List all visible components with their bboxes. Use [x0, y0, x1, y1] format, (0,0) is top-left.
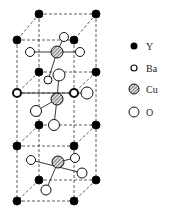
- o-atom: [76, 48, 85, 57]
- o-atom: [41, 185, 51, 195]
- y-atom: [70, 36, 78, 44]
- o-atom: [71, 154, 80, 163]
- legend-y-label: Y: [146, 41, 153, 52]
- y-atom: [92, 176, 100, 184]
- legend-ba-label: Ba: [146, 63, 158, 74]
- o-atom: [60, 33, 69, 42]
- y-atom: [70, 142, 78, 150]
- ba-atom: [13, 89, 21, 97]
- legend-cu-symbol: [129, 84, 139, 94]
- o-atom: [44, 76, 52, 84]
- y-atom: [92, 68, 100, 76]
- o-atom: [27, 156, 36, 165]
- y-atom: [13, 36, 21, 44]
- legend: Y Ba Cu O: [129, 41, 158, 118]
- y-atom: [70, 197, 78, 205]
- cu-atom: [52, 156, 64, 168]
- o-atom: [77, 168, 87, 178]
- o-atom: [49, 120, 60, 131]
- o-atom: [26, 48, 35, 57]
- y-atom: [35, 121, 43, 129]
- y-atom: [35, 10, 43, 18]
- o-atom: [53, 69, 65, 81]
- legend-o-label: O: [146, 107, 153, 118]
- cu-atom: [51, 46, 63, 58]
- cu-atom: [51, 93, 63, 105]
- y-atom: [35, 176, 43, 184]
- y-atom: [92, 121, 100, 129]
- y-atom: [92, 10, 100, 18]
- atoms: [13, 10, 100, 205]
- crystal-structure-diagram: Y Ba Cu O: [0, 0, 172, 219]
- y-atom: [13, 142, 21, 150]
- ba-atom: [70, 89, 78, 97]
- legend-o-symbol: [129, 107, 139, 117]
- o-atom: [31, 106, 42, 117]
- bonds: [17, 37, 87, 190]
- legend-cu-label: Cu: [146, 84, 158, 95]
- y-atom: [35, 68, 43, 76]
- y-atom: [13, 197, 21, 205]
- o-atom: [81, 87, 93, 99]
- legend-ba-symbol: [131, 65, 137, 71]
- legend-y-symbol: [131, 43, 138, 50]
